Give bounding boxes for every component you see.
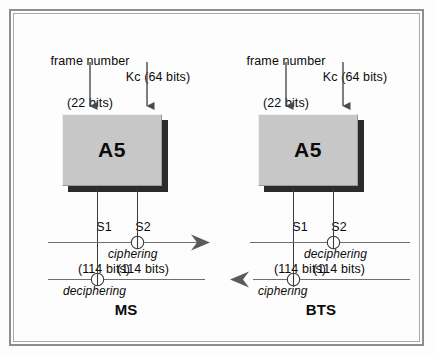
ms-upper-xor-icon	[131, 236, 143, 249]
bts-downlink-direction-arrow-icon	[230, 272, 249, 288]
bts-upper-xor-icon	[327, 236, 339, 249]
ms-uplink-direction-arrow-icon	[191, 235, 210, 251]
diagram-vector-overlay	[0, 0, 435, 357]
a5-ciphering-diagram: frame number (22 bits) Kc (64 bits) A5 S…	[0, 0, 435, 357]
ms-lower-xor-icon	[91, 273, 103, 286]
bts-lower-xor-icon	[287, 273, 299, 286]
